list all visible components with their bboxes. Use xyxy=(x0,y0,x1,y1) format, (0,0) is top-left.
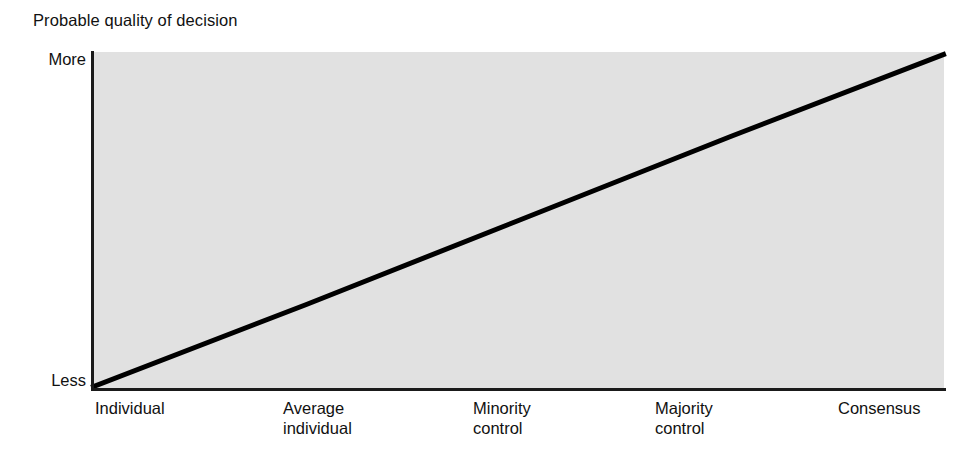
x-tick-label-consensus: Consensus xyxy=(838,398,921,418)
x-axis-line xyxy=(91,388,946,391)
x-tick-line1: Consensus xyxy=(838,399,921,417)
trend-line xyxy=(94,55,944,387)
y-axis-low-label: Less xyxy=(28,371,86,390)
x-tick-line2: individual xyxy=(283,418,352,438)
chart-figure: Probable quality of decision More Less I… xyxy=(0,0,966,449)
x-tick-line2: control xyxy=(655,418,713,438)
y-axis-line xyxy=(91,51,94,390)
x-tick-label-minority-control: Minority control xyxy=(473,398,531,438)
x-tick-label-average-individual: Average individual xyxy=(283,398,352,438)
x-tick-line2: control xyxy=(473,418,531,438)
x-tick-line1: Majority xyxy=(655,399,713,417)
x-tick-line1: Individual xyxy=(95,399,165,417)
trend-line-chart xyxy=(93,52,944,389)
x-tick-line1: Minority xyxy=(473,399,531,417)
chart-title: Probable quality of decision xyxy=(33,10,238,30)
y-axis-high-label: More xyxy=(28,50,86,69)
x-tick-label-majority-control: Majority control xyxy=(655,398,713,438)
x-tick-label-individual: Individual xyxy=(95,398,165,418)
x-tick-line1: Average xyxy=(283,399,344,417)
plot-area xyxy=(93,52,944,389)
